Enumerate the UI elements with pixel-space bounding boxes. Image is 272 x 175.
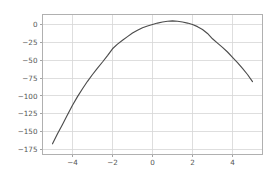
- y-tick-label: −75: [22, 74, 37, 83]
- x-tick-label: 2: [190, 158, 195, 167]
- y-tick-label: −25: [22, 38, 37, 47]
- x-tick-label: 4: [230, 158, 235, 167]
- y-tick-label: −100: [18, 92, 38, 101]
- x-tick-label: −4: [67, 158, 78, 167]
- y-tick-label: 0: [33, 20, 38, 29]
- x-tick-label: −2: [107, 158, 118, 167]
- y-tick-label: −125: [18, 109, 38, 118]
- figure-canvas: 0−25−50−75−100−125−150−175 −4−2024: [0, 0, 272, 175]
- line-chart: 0−25−50−75−100−125−150−175 −4−2024: [0, 0, 272, 175]
- y-tick-label: −150: [18, 127, 38, 136]
- y-tick-label: −50: [22, 56, 38, 65]
- y-tick-label: −175: [18, 145, 38, 154]
- x-tick-label: 0: [150, 158, 155, 167]
